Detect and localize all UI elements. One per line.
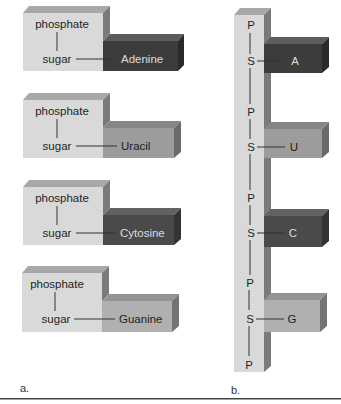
base-letter: U: [290, 141, 298, 153]
base-label: Guanine: [119, 313, 162, 325]
sugar-label: sugar: [43, 53, 72, 65]
base-top-face: [103, 34, 184, 41]
base-letter: A: [291, 55, 299, 67]
panel-a-label: a.: [20, 382, 29, 394]
sugar-letter: S: [247, 227, 255, 239]
nucleotide-block-cytosine: phosphate sugar Cytosine: [23, 180, 181, 245]
sugar-label: sugar: [42, 313, 71, 325]
sugar-label: sugar: [43, 227, 72, 239]
base-letter: G: [288, 313, 297, 325]
phosphate-letter: P: [247, 19, 255, 31]
base-u: U: [264, 122, 329, 158]
phosphate-letter: P: [247, 106, 255, 118]
sugar-label: sugar: [43, 140, 72, 152]
base-label: Cytosine: [120, 227, 165, 239]
phosphate-label: phosphate: [35, 18, 89, 30]
base-letter: C: [289, 227, 297, 239]
base-label: Adenine: [121, 53, 163, 65]
sugar-top-face: [23, 93, 110, 100]
base-top-face: [103, 121, 181, 128]
base-top-face: [264, 122, 329, 129]
phosphate-letter: P: [246, 277, 254, 289]
phosphate-label: phosphate: [35, 192, 89, 204]
nucleotide-block-adenine: phosphate sugar Adenine: [23, 6, 184, 71]
base-top-face: [264, 293, 327, 300]
sugar-top-face: [22, 266, 109, 273]
base-label: Uracil: [121, 140, 150, 152]
nucleotide-diagram: phosphate sugar Adenine phosphate sugar …: [0, 0, 341, 404]
panel-a: phosphate sugar Adenine phosphate sugar …: [20, 6, 184, 394]
base-c: C: [264, 209, 329, 247]
base-top-face: [103, 208, 181, 215]
sugar-top-face: [23, 6, 110, 13]
phosphate-label: phosphate: [35, 105, 89, 117]
base-top-face: [264, 37, 329, 44]
sugar-top-face: [23, 180, 110, 187]
sugar-letter: S: [247, 55, 255, 67]
panel-b: A U C G P S P S: [231, 8, 329, 396]
base-top-face: [264, 209, 329, 216]
phosphate-letter: P: [245, 359, 253, 371]
panel-b-label: b.: [231, 384, 240, 396]
phosphate-label: phosphate: [30, 278, 84, 290]
base-g: G: [264, 293, 327, 332]
base-top-face: [102, 294, 179, 301]
sugar-letter: S: [246, 313, 254, 325]
base-a: A: [264, 37, 329, 73]
nucleotide-block-guanine: phosphate sugar Guanine: [22, 266, 179, 332]
nucleotide-block-uracil: phosphate sugar Uracil: [23, 93, 181, 158]
phosphate-letter: P: [247, 192, 255, 204]
bottom-rule: [0, 398, 341, 400]
sugar-letter: S: [247, 141, 255, 153]
